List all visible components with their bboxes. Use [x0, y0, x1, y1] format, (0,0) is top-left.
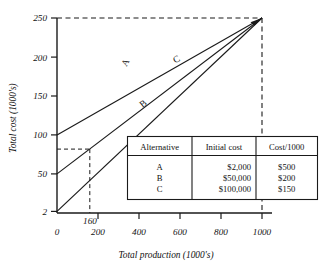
series-label-c: C [171, 53, 181, 65]
series-line-c [57, 18, 262, 135]
table-cell-cost-per-1000: $200 [278, 173, 295, 183]
x-tick-label-800: 800 [214, 227, 228, 237]
y-axis-tick-labels: 250 200 150 100 50 2 [33, 13, 47, 217]
table-header-initial-cost: Initial cost [206, 142, 243, 152]
x-axis-tick-labels: 0 200 400 600 800 1000 160 [55, 216, 272, 237]
x-marker-label-160: 160 [83, 216, 97, 226]
table-cell-initial-cost: $100,000 [219, 184, 251, 194]
table-cell-initial-cost: $50,000 [223, 173, 251, 183]
table-cell-alternative: A [157, 162, 164, 172]
table-header-row: Alternative Initial cost Cost/1000 [140, 142, 304, 152]
y-tick-label-150: 150 [33, 91, 47, 101]
y-tick-label-200: 200 [33, 53, 47, 63]
convergence-arrowhead [251, 18, 263, 25]
chart-figure: 250 200 150 100 50 2 0 200 400 600 800 1… [0, 0, 322, 270]
x-axis-title: Total production (1000's) [118, 250, 213, 261]
y-axis-ticks [51, 18, 57, 211]
x-tick-label-200: 200 [91, 227, 105, 237]
series-label-b: B [138, 98, 149, 110]
cost-comparison-chart: 250 200 150 100 50 2 0 200 400 600 800 1… [0, 0, 322, 270]
y-tick-label-100: 100 [33, 130, 47, 140]
x-tick-label-400: 400 [132, 227, 146, 237]
y-tick-label-50: 50 [38, 169, 48, 179]
table-cell-alternative: B [157, 173, 163, 183]
series-label-a: A [119, 57, 131, 68]
y-tick-label-2: 2 [42, 207, 47, 217]
x-tick-label-1000: 1000 [253, 227, 272, 237]
table-header-alternative: Alternative [140, 142, 179, 152]
table-cell-initial-cost: $2,000 [227, 162, 251, 172]
x-tick-label-600: 600 [173, 227, 187, 237]
table-cell-cost-per-1000: $150 [278, 184, 295, 194]
x-tick-label-0: 0 [55, 227, 60, 237]
table-cell-cost-per-1000: $500 [278, 162, 295, 172]
table-header-cost-per-1000: Cost/1000 [269, 142, 304, 152]
x-axis-ticks [98, 213, 262, 219]
y-tick-label-250: 250 [33, 13, 47, 23]
alternatives-table: Alternative Initial cost Cost/1000 A $2,… [128, 137, 318, 200]
table-cell-alternative: C [157, 184, 163, 194]
y-axis-title: Total cost (1000's) [8, 83, 19, 152]
